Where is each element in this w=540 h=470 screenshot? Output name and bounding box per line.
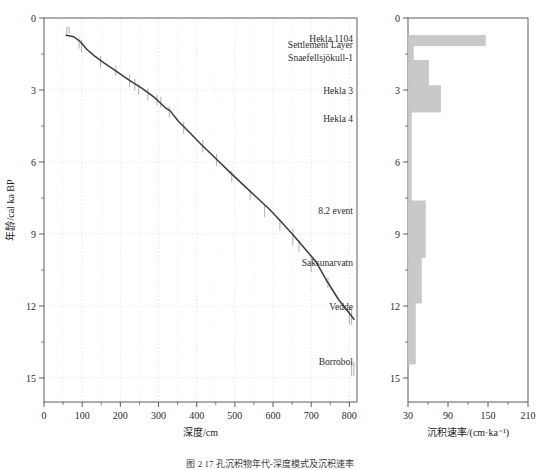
x-tick-label: 300 <box>151 410 166 421</box>
y-tick-label: 9 <box>31 229 36 240</box>
y-axis-title: 年龄/cal ka BP <box>4 179 16 241</box>
sedimentation-rate-bar <box>408 35 485 46</box>
x-tick-label: 90 <box>443 410 453 421</box>
figure-container: 010020030040050060070080003691215深度/cm年龄… <box>0 0 540 470</box>
panel-a-frame <box>44 18 357 402</box>
figure-caption: 图 2 17 孔沉积物年代-深度模式及沉积速率 <box>0 457 540 470</box>
tephra-marker-label: Snaefellsjökull-1 <box>288 53 353 63</box>
y-tick-label: 0 <box>395 13 400 24</box>
x-tick-label: 200 <box>113 410 128 421</box>
y-tick-label: 0 <box>31 13 36 24</box>
x-tick-label: 150 <box>481 410 496 421</box>
x-tick-label: 800 <box>342 410 357 421</box>
sedimentation-rate-bar <box>408 86 441 112</box>
age-depth-curve <box>66 35 354 319</box>
tephra-marker-label: Hekla 4 <box>323 114 353 124</box>
tephra-marker-label: Saksunarvatn <box>302 258 353 268</box>
age-depth-and-sedrate-figure: 010020030040050060070080003691215深度/cm年龄… <box>0 0 540 470</box>
y-tick-label: 6 <box>395 157 400 168</box>
y-tick-label: 12 <box>26 301 36 312</box>
y-tick-label: 6 <box>31 157 36 168</box>
y-tick-label: 12 <box>390 301 400 312</box>
sedimentation-rate-bar <box>408 112 411 201</box>
x-tick-label: 600 <box>266 410 281 421</box>
y-tick-label: 15 <box>390 373 400 384</box>
y-tick-label: 15 <box>26 373 36 384</box>
x-tick-label: 700 <box>304 410 319 421</box>
tephra-marker-label: Hekla 3 <box>323 86 353 96</box>
tephra-marker-label: Vedde <box>329 302 353 312</box>
sedimentation-rate-bar <box>408 201 425 258</box>
x-tick-label: 0 <box>42 410 47 421</box>
tephra-marker-label: Borrobol <box>319 357 354 367</box>
y-tick-label: 9 <box>395 229 400 240</box>
x-tick-label: 500 <box>227 410 242 421</box>
x-tick-label: 210 <box>521 410 536 421</box>
y-tick-label: 3 <box>395 85 400 96</box>
sedimentation-rate-bar <box>408 46 413 60</box>
x-tick-label: 400 <box>189 410 204 421</box>
x-axis-title-b: 沉积速率/(cm·ka⁻¹) <box>427 426 509 439</box>
x-tick-label: 30 <box>403 410 413 421</box>
tephra-marker-label: Settlement Layer <box>288 40 354 50</box>
sedimentation-rate-bar <box>408 258 421 304</box>
x-axis-title: 深度/cm <box>183 426 218 438</box>
sedimentation-rate-bar <box>408 303 415 364</box>
x-tick-label: 100 <box>75 410 90 421</box>
tephra-marker-label: 8.2 event <box>318 206 353 216</box>
y-tick-label: 3 <box>31 85 36 96</box>
sedimentation-rate-bar <box>408 60 429 85</box>
